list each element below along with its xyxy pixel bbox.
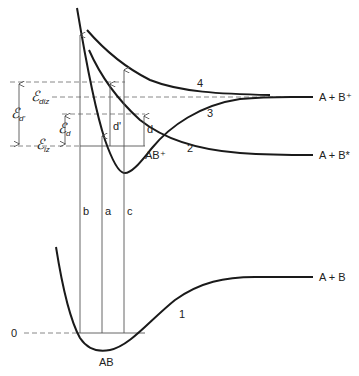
label-e-dprime: ℰd' xyxy=(11,106,25,123)
asymptote-A-B: A + B xyxy=(319,271,346,283)
curve-label-1: 1 xyxy=(179,308,185,320)
curve-label-3: 3 xyxy=(207,107,213,119)
curve-label-4: 4 xyxy=(197,77,203,89)
label-e-d: ℰd xyxy=(58,121,71,138)
label-e-diz: ℰdiz xyxy=(31,89,49,106)
potential-energy-diagram: ℰd' ℰdiz ℰd ℰiz 0 b a c d' d 1 2 3 4 AB⁺… xyxy=(0,0,359,376)
label-e-iz: ℰiz xyxy=(36,137,50,154)
asymptote-A-B-star: A + B* xyxy=(319,149,351,161)
label-dprime: d' xyxy=(113,120,121,132)
label-d: d xyxy=(147,123,153,135)
label-AB: AB xyxy=(99,356,114,368)
curve-1-ground-state xyxy=(56,247,313,351)
curve-3 xyxy=(89,50,313,155)
label-zero: 0 xyxy=(11,327,17,339)
label-AB-plus: AB⁺ xyxy=(145,149,166,161)
label-a: a xyxy=(105,205,112,217)
label-b: b xyxy=(83,205,89,217)
label-c: c xyxy=(127,205,133,217)
asymptote-A-B-plus: A + B⁺ xyxy=(319,91,352,103)
curve-label-2: 2 xyxy=(187,142,193,154)
curve-4 xyxy=(87,30,270,95)
